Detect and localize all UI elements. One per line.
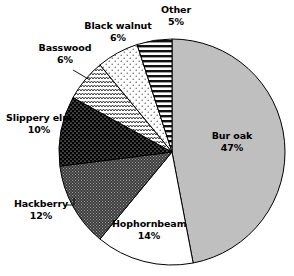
slice-label-hophornbeam: Hophornbeam 14%: [112, 218, 186, 241]
slice-label-bur-oak-name: Bur oak: [208, 130, 256, 142]
slice-label-hackberry-name: Hackberry: [10, 198, 72, 210]
slice-label-bur-oak: Bur oak 47%: [208, 130, 256, 153]
slice-label-bur-oak-value: 47%: [208, 142, 256, 154]
slice-label-hophornbeam-name: Hophornbeam: [112, 218, 186, 230]
slice-label-basswood-name: Basswood: [34, 42, 96, 54]
slice-label-other-value: 5%: [148, 16, 204, 28]
slice-label-hophornbeam-value: 14%: [112, 230, 186, 242]
pie-chart: Other 5% Black walnut 6% Basswood 6% Sli…: [0, 0, 294, 276]
slice-label-black-walnut-name: Black walnut: [82, 20, 154, 32]
slice-label-other: Other 5%: [148, 4, 204, 27]
slice-label-basswood: Basswood 6%: [34, 42, 96, 65]
slice-label-hackberry-value: 12%: [10, 210, 72, 222]
slice-label-slippery-elm-name: Slippery elm: [6, 112, 72, 124]
slice-label-hackberry: Hackberry 12%: [10, 198, 72, 221]
slice-label-other-name: Other: [148, 4, 204, 16]
slice-label-black-walnut: Black walnut 6%: [82, 20, 154, 43]
slice-label-basswood-value: 6%: [34, 54, 96, 66]
leader-line-basswood: [73, 70, 90, 80]
slice-label-slippery-elm-value: 10%: [6, 124, 72, 136]
slice-label-slippery-elm: Slippery elm 10%: [6, 112, 72, 135]
